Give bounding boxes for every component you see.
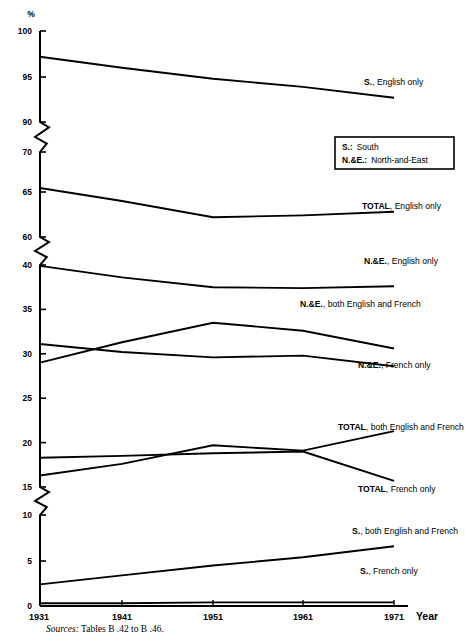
legend-box: S.:South N.&E.:North-and-East: [335, 137, 454, 169]
source-note-prefix: Sources:: [46, 624, 79, 634]
series-label: S., French only: [360, 566, 419, 576]
x-tick-label: 1941: [112, 612, 132, 622]
source-note-text: Tables B .42 to B .46.: [81, 624, 164, 634]
x-tick-label: 1931: [29, 612, 49, 622]
legend-row-1: N.&E.:North-and-East: [342, 155, 429, 165]
y-tick-label: 100: [18, 26, 32, 36]
y-tick-label: 20: [23, 438, 33, 448]
y-tick-label: 10: [23, 510, 33, 520]
y-tick-label: 0: [27, 601, 32, 611]
y-tick-label: 40: [23, 260, 33, 270]
y-tick-label: 25: [23, 393, 33, 403]
series-line: [40, 602, 394, 603]
x-tick-label: 1971: [384, 612, 404, 622]
y-tick-label: 15: [23, 482, 33, 492]
x-axis-title: Year: [416, 610, 438, 622]
y-tick-label: 90: [23, 117, 33, 127]
series-label: TOTAL, English only: [362, 201, 442, 211]
legend-row-0: S.:South: [342, 142, 379, 152]
y-tick-label: 65: [23, 187, 33, 197]
y-tick-label: 95: [23, 72, 33, 82]
series-label: N.&E., French only: [358, 360, 431, 370]
y-axis-unit-label: %: [27, 9, 35, 19]
y-tick-label: 70: [23, 147, 33, 157]
x-tick-label: 1951: [203, 612, 223, 622]
series-label: TOTAL, French only: [358, 484, 436, 494]
series-label: N.&E., English only: [364, 256, 439, 266]
x-tick-label: 1961: [293, 612, 313, 622]
series-label: S., English only: [364, 77, 424, 87]
series-label: S., both English and French: [352, 526, 458, 536]
series-label: N.&E., both English and French: [300, 299, 421, 309]
source-note: Sources: Tables B .42 to B .46.: [46, 624, 164, 634]
language-line-chart: 10095907065604035302520151050 % 19311941…: [0, 0, 465, 643]
y-tick-label: 30: [23, 349, 33, 359]
series-label: TOTAL, both English and French: [338, 422, 464, 432]
y-tick-label: 35: [23, 304, 33, 314]
y-tick-label: 5: [27, 556, 32, 566]
chart-background: [0, 0, 465, 643]
y-tick-label: 60: [23, 232, 33, 242]
